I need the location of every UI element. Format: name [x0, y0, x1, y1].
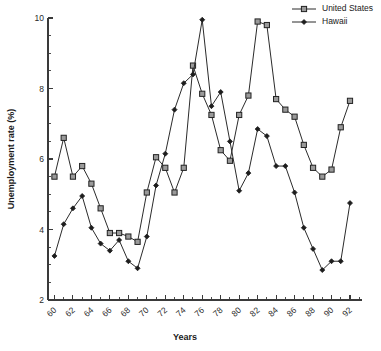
marker-square [107, 230, 112, 235]
marker-square [144, 190, 149, 195]
marker-square [246, 93, 251, 98]
marker-square [338, 125, 343, 130]
y-tick-label: 10 [35, 13, 45, 23]
marker-diamond [154, 183, 159, 188]
x-tick-label: 80 [229, 305, 243, 319]
x-tick-label: 84 [266, 305, 280, 319]
y-tick-label: 4 [39, 225, 44, 235]
x-tick-label: 86 [285, 305, 299, 319]
marker-square [237, 112, 242, 117]
x-tick-label: 74 [174, 305, 188, 319]
x-tick-label: 76 [192, 305, 206, 319]
x-tick-label: 68 [118, 305, 132, 319]
y-axis-ticks: 246810 [35, 13, 53, 305]
x-tick-label: 90 [322, 305, 336, 319]
x-tick-label: 78 [211, 305, 225, 319]
marker-square [61, 135, 66, 140]
marker-square [209, 112, 214, 117]
marker-square [172, 190, 177, 195]
x-tick-label: 60 [45, 305, 59, 319]
marker-square [70, 174, 75, 179]
marker-diamond [218, 90, 223, 95]
chart-plot-area: 2468106062646668707274767880828486889092… [0, 0, 381, 351]
marker-diamond [89, 225, 94, 230]
series-united-states [52, 19, 353, 245]
marker-diamond [302, 20, 307, 25]
x-tick-label: 70 [137, 305, 151, 319]
x-tick-label: 82 [248, 305, 262, 319]
series-hawaii [52, 17, 353, 272]
marker-square [301, 142, 306, 147]
marker-square [347, 98, 352, 103]
marker-square [89, 181, 94, 186]
axis-titles: Unemployment rate (%)Years [6, 109, 197, 342]
marker-square [135, 239, 140, 244]
marker-square [163, 165, 168, 170]
marker-diamond [283, 164, 288, 169]
x-tick-label: 66 [100, 305, 114, 319]
marker-square [310, 165, 315, 170]
chart-legend: United StatesHawaii [292, 3, 373, 26]
marker-diamond [338, 259, 343, 264]
marker-diamond [274, 164, 279, 169]
marker-square [320, 174, 325, 179]
marker-diamond [347, 201, 352, 206]
marker-diamond [172, 107, 177, 112]
marker-diamond [163, 151, 168, 156]
marker-square [52, 174, 57, 179]
marker-diamond [209, 104, 214, 109]
marker-square [153, 155, 158, 160]
marker-diamond [292, 190, 297, 195]
marker-square [200, 91, 205, 96]
marker-square [264, 22, 269, 27]
marker-square [301, 6, 306, 11]
x-tick-label: 62 [63, 305, 77, 319]
chart-axes [48, 18, 362, 300]
marker-diamond [246, 171, 251, 176]
x-tick-label: 88 [303, 305, 317, 319]
marker-diamond [311, 246, 316, 251]
marker-square [227, 158, 232, 163]
marker-diamond [237, 188, 242, 193]
legend-entry-label: Hawaii [322, 16, 348, 26]
x-axis-ticks: 6062646668707274767880828486889092 [45, 295, 360, 319]
unemployment-rate-chart: 2468106062646668707274767880828486889092… [0, 0, 381, 351]
y-axis-title: Unemployment rate (%) [6, 109, 16, 210]
marker-square [126, 234, 131, 239]
marker-square [80, 163, 85, 168]
marker-square [117, 230, 122, 235]
marker-diamond [301, 225, 306, 230]
marker-diamond [200, 17, 205, 22]
y-tick-label: 8 [39, 84, 44, 94]
marker-square [255, 19, 260, 24]
y-tick-label: 6 [39, 154, 44, 164]
x-axis-title: Years [173, 332, 197, 342]
marker-diamond [144, 234, 149, 239]
marker-diamond [61, 222, 66, 227]
marker-square [283, 107, 288, 112]
marker-square [292, 114, 297, 119]
marker-square [274, 96, 279, 101]
marker-square [98, 206, 103, 211]
x-tick-label: 72 [155, 305, 169, 319]
marker-square [329, 167, 334, 172]
marker-square [218, 148, 223, 153]
y-tick-label: 2 [39, 295, 44, 305]
marker-square [181, 165, 186, 170]
marker-diamond [52, 253, 57, 258]
marker-diamond [227, 139, 232, 144]
legend-entry-label: United States [322, 3, 373, 13]
x-tick-label: 92 [340, 305, 354, 319]
x-tick-label: 64 [82, 305, 96, 319]
